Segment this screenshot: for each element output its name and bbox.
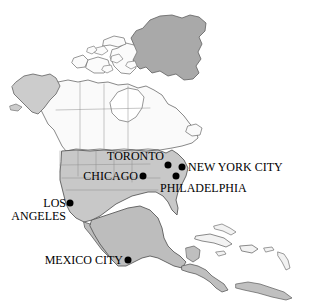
city-label-philadelphia: PHILADELPHIA bbox=[160, 182, 247, 195]
city-marker-toronto[interactable] bbox=[165, 162, 172, 169]
city-label-los-angeles: LOS ANGELES bbox=[11, 197, 66, 222]
city-label-new-york-city: NEW YORK CITY bbox=[188, 161, 283, 174]
city-marker-chicago[interactable] bbox=[140, 173, 147, 180]
city-marker-layer: TORONTONEW YORK CITYCHICAGOPHILADELPHIAL… bbox=[0, 0, 326, 301]
city-marker-los-angeles[interactable] bbox=[67, 200, 74, 207]
city-marker-mexico-city[interactable] bbox=[125, 257, 132, 264]
city-label-mexico-city: MEXICO CITY bbox=[45, 254, 123, 267]
map-container: TORONTONEW YORK CITYCHICAGOPHILADELPHIAL… bbox=[0, 0, 326, 301]
city-label-chicago: CHICAGO bbox=[83, 170, 138, 183]
city-marker-new-york-city[interactable] bbox=[179, 164, 186, 171]
city-marker-philadelphia[interactable] bbox=[173, 173, 180, 180]
city-label-toronto: TORONTO bbox=[107, 150, 164, 163]
